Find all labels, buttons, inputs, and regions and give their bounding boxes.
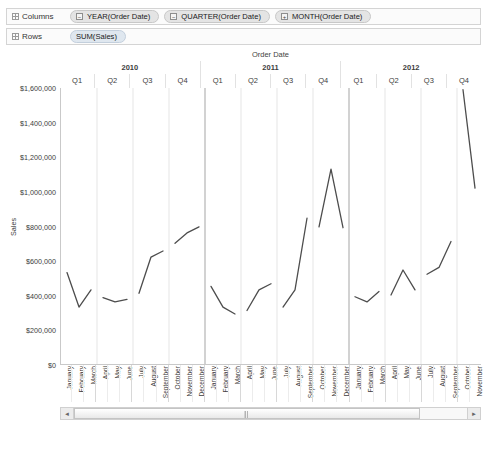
month-header-cell[interactable]: April [95,365,107,402]
quarter-header-cell[interactable]: Q3 [411,74,446,88]
horizontal-scrollbar[interactable]: ◄ ► [60,407,481,420]
month-header-cell[interactable]: September [156,365,168,402]
y-axis-tick-label: $1,000,000 [20,187,56,196]
month-header-cell[interactable]: July [421,365,433,402]
pill-year-order-date[interactable]: − YEAR(Order Date) [70,10,159,23]
month-header-cell[interactable]: April [240,365,252,402]
month-header-cell[interactable]: May [107,365,119,402]
month-header-cell[interactable]: February [71,365,83,402]
month-header-cell[interactable]: September [300,365,312,402]
columns-shelf-label: Columns [7,12,70,21]
column-axis-title: Order Date [60,50,481,59]
quarter-header-cell[interactable]: Q4 [165,74,200,88]
scrollbar-track[interactable] [74,408,467,419]
pill-month-order-date[interactable]: + MONTH(Order Date) [275,10,371,23]
month-header-cell[interactable]: June [409,365,421,402]
month-header-cell[interactable]: March [228,365,240,402]
month-header-cell[interactable]: January [60,365,71,402]
month-header-cell[interactable]: March [83,365,95,402]
rows-label-text: Rows [22,32,42,41]
quarter-header-cell[interactable]: Q2 [235,74,270,88]
quarter-header-cell[interactable]: Q4 [305,74,340,88]
line-segment[interactable] [211,286,235,314]
y-axis-tick-label: $200,000 [26,326,56,335]
line-segment[interactable] [139,251,163,293]
month-header-cell[interactable]: October [312,365,324,402]
month-header-cell[interactable]: January [349,365,361,402]
scrollbar-thumb[interactable] [74,408,420,419]
month-header-cell[interactable]: January [204,365,216,402]
quarter-header-cell[interactable]: Q1 [60,74,94,88]
pill-label: YEAR(Order Date) [87,12,150,21]
month-header-cell[interactable]: June [264,365,276,402]
month-header-cell[interactable]: July [131,365,143,402]
line-segment[interactable] [67,273,91,308]
month-header-cell[interactable]: November [469,365,481,402]
month-header-cell[interactable]: March [373,365,385,402]
y-axis-tick-label: $1,600,000 [20,84,56,93]
quarter-header-cell[interactable]: Q2 [376,74,411,88]
year-header-cell[interactable]: 2010 [60,61,200,74]
visualization: Order Date 201020112012 Q1Q2Q3Q4Q1Q2Q3Q4… [4,50,483,420]
shelf-area: Columns − YEAR(Order Date) − QUARTER(Ord… [0,0,487,45]
columns-pill-zone[interactable]: − YEAR(Order Date) − QUARTER(Order Date)… [70,10,480,23]
y-axis-tick-label: $800,000 [26,222,56,231]
month-header-cell[interactable]: February [216,365,228,402]
month-header-cell[interactable]: May [252,365,264,402]
month-header-label: November [476,366,483,396]
quarter-header-cell[interactable]: Q1 [340,74,375,88]
quarter-header-cell[interactable]: Q2 [94,74,129,88]
quarter-header-band: Q1Q2Q3Q4Q1Q2Q3Q4Q1Q2Q3Q4 [60,74,481,88]
month-header-cell[interactable]: August [433,365,445,402]
quarter-header-cell[interactable]: Q3 [129,74,164,88]
month-header-cell[interactable]: May [397,365,409,402]
line-segment[interactable] [103,298,127,302]
year-header-cell[interactable]: 2012 [340,61,481,74]
month-header-cell[interactable]: February [361,365,373,402]
collapse-icon[interactable]: − [170,13,177,20]
pill-sum-sales[interactable]: SUM(Sales) [70,30,126,43]
month-header-cell[interactable]: November [324,365,336,402]
scroll-left-arrow-icon[interactable]: ◄ [61,408,74,419]
month-header-cell[interactable]: June [119,365,131,402]
month-header-band: JanuaryFebruaryMarchAprilMayJuneJulyAugu… [60,365,481,402]
columns-shelf[interactable]: Columns − YEAR(Order Date) − QUARTER(Ord… [6,8,481,25]
line-segment[interactable] [247,284,271,311]
line-segment[interactable] [463,90,475,188]
y-axis-tick-label: $0 [48,361,56,370]
quarter-header-cell[interactable]: Q3 [270,74,305,88]
columns-grid-icon [12,13,19,20]
rows-grid-icon [12,33,19,40]
line-chart-svg [61,88,481,364]
plot-area[interactable] [60,88,481,365]
scroll-right-arrow-icon[interactable]: ► [467,408,480,419]
line-segment[interactable] [319,169,343,228]
month-header-cell[interactable]: October [168,365,180,402]
month-header-cell[interactable]: December [192,365,204,402]
collapse-icon[interactable]: − [76,13,83,20]
month-header-cell[interactable]: October [457,365,469,402]
month-header-cell[interactable]: August [288,365,300,402]
y-axis-tick-label: $1,400,000 [20,118,56,127]
month-header-cell[interactable]: November [180,365,192,402]
line-segment[interactable] [355,292,379,302]
y-axis-tick-label: $1,200,000 [20,153,56,162]
quarter-header-cell[interactable]: Q4 [446,74,481,88]
y-axis: Sales $0$200,000$400,000$600,000$800,000… [4,88,60,365]
year-header-cell[interactable]: 2011 [200,61,341,74]
line-segment[interactable] [427,242,451,275]
line-segment[interactable] [391,270,415,295]
pill-quarter-order-date[interactable]: − QUARTER(Order Date) [164,10,270,23]
rows-pill-zone[interactable]: SUM(Sales) [70,30,480,43]
scrollbar-grip-icon [244,411,249,418]
month-header-cell[interactable]: December [336,365,348,402]
quarter-header-cell[interactable]: Q1 [200,74,235,88]
month-header-cell[interactable]: April [385,365,397,402]
rows-shelf[interactable]: Rows SUM(Sales) [6,28,481,45]
month-header-cell[interactable]: August [143,365,155,402]
line-segment[interactable] [283,218,307,307]
line-segment[interactable] [175,227,199,243]
month-header-cell[interactable]: September [445,365,457,402]
expand-icon[interactable]: + [281,13,288,20]
month-header-cell[interactable]: July [276,365,288,402]
